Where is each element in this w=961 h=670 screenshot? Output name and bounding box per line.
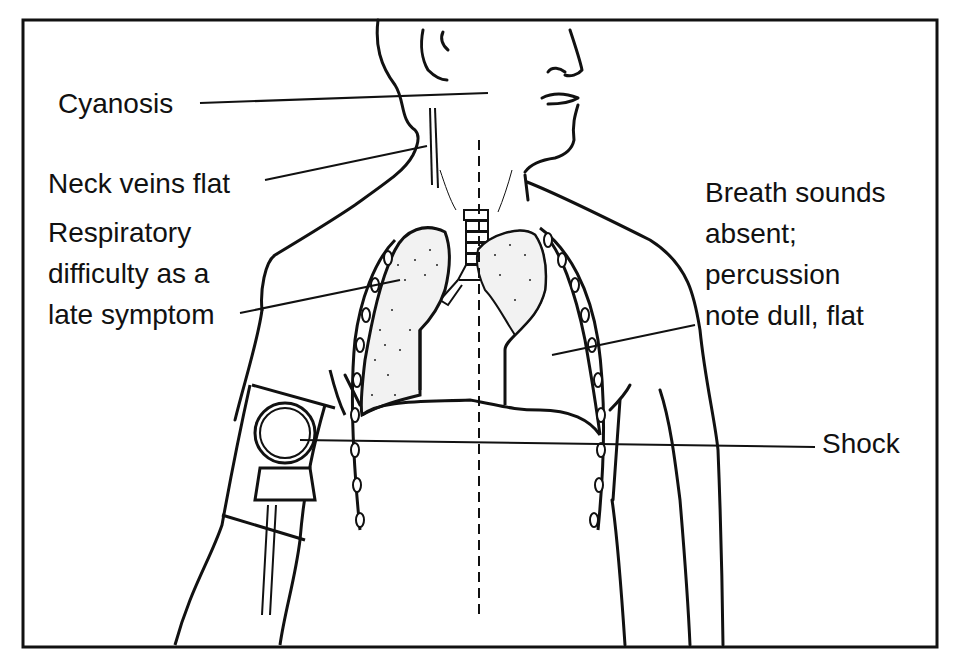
left-lung-icon [361,228,449,415]
label-breath-line3: percussion [705,257,840,293]
label-breath-line2: absent; [705,216,797,252]
diagram-figure: Cyanosis Neck veins flat Respiratory dif… [0,0,961,670]
label-respiratory-line1: Respiratory [48,215,191,251]
breath-sounds-leader [552,325,695,355]
shock-leader [300,440,815,447]
label-cyanosis: Cyanosis [58,86,173,122]
label-neck-veins: Neck veins flat [48,166,230,202]
neck-veins-leader [265,146,427,180]
cyanosis-leader [200,93,488,103]
label-respiratory-line3: late symptom [48,297,215,333]
label-breath-line4: note dull, flat [705,298,864,334]
blood-pressure-cuff-icon [175,370,345,645]
neck-veins-icon [430,108,512,212]
label-shock: Shock [822,426,900,462]
label-breath-line1: Breath sounds [705,175,886,211]
label-respiratory-line2: difficulty as a [48,256,209,292]
collapsed-lung-icon [477,231,546,405]
